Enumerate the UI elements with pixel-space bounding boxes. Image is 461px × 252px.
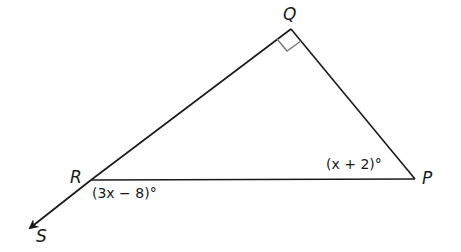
right-angle-marker xyxy=(277,39,301,51)
side-RP xyxy=(91,179,415,180)
vertex-label-r: R xyxy=(70,169,82,186)
angle-label-exterior-r: (3x − 8)° xyxy=(92,186,157,200)
ray-RS xyxy=(30,180,91,228)
triangle-diagram xyxy=(0,0,461,252)
side-RQ xyxy=(91,29,291,180)
vertex-label-q: Q xyxy=(283,6,296,23)
angle-label-p: (x + 2)° xyxy=(326,157,382,171)
vertex-label-p: P xyxy=(422,170,432,187)
vertex-label-s: S xyxy=(36,228,47,245)
